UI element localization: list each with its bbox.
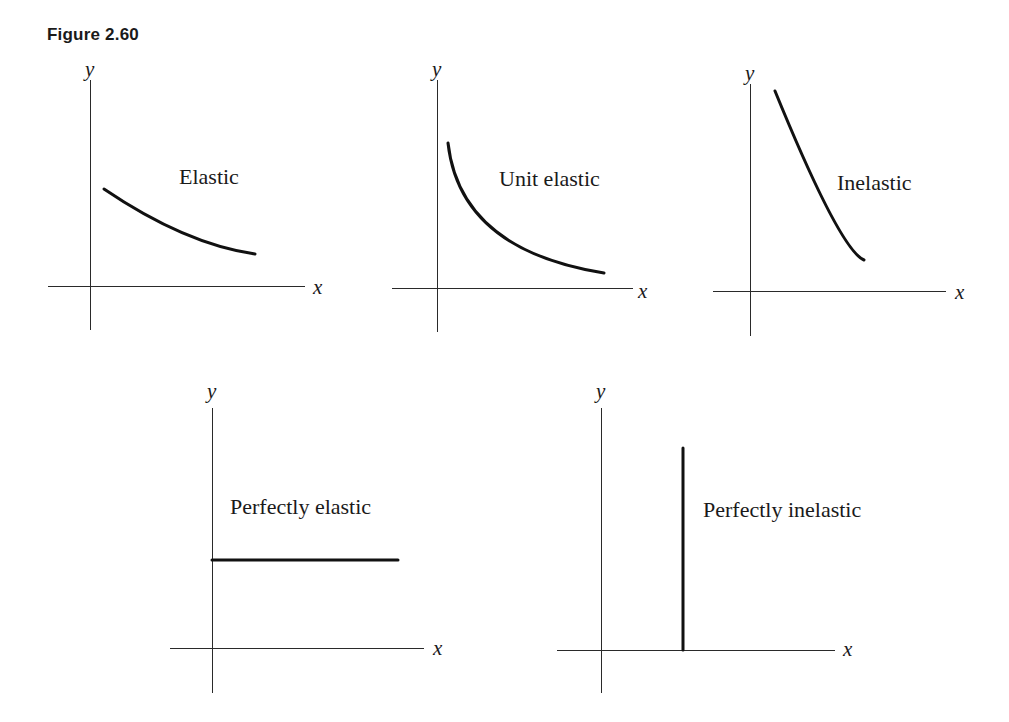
- y-axis-label: y: [205, 379, 217, 403]
- demand-curve: [104, 189, 255, 254]
- panel-label: Perfectly inelastic: [703, 497, 861, 522]
- panel-inelastic: y x Inelastic: [713, 61, 965, 336]
- x-axis-label: x: [842, 637, 853, 661]
- panel-label: Unit elastic: [499, 166, 600, 191]
- panel-perfectly-inelastic: y x Perfectly inelastic: [557, 379, 861, 693]
- y-axis-label: y: [743, 61, 755, 85]
- demand-curve: [448, 143, 604, 273]
- figure-canvas: y x Elastic y x Unit elastic y x Inelast…: [0, 0, 1009, 722]
- x-axis-label: x: [954, 280, 965, 304]
- x-axis-label: x: [637, 279, 648, 303]
- y-axis-label: y: [430, 57, 442, 81]
- x-axis-label: x: [312, 275, 323, 299]
- panel-label: Elastic: [179, 164, 239, 189]
- panel-unit-elastic: y x Unit elastic: [392, 57, 648, 332]
- x-axis-label: x: [432, 636, 443, 660]
- panel-perfectly-elastic: y x Perfectly elastic: [170, 379, 443, 693]
- panel-label: Perfectly elastic: [230, 494, 371, 519]
- y-axis-label: y: [594, 379, 606, 403]
- panel-elastic: y x Elastic: [48, 57, 323, 330]
- y-axis-label: y: [83, 57, 95, 81]
- panel-label: Inelastic: [837, 170, 912, 195]
